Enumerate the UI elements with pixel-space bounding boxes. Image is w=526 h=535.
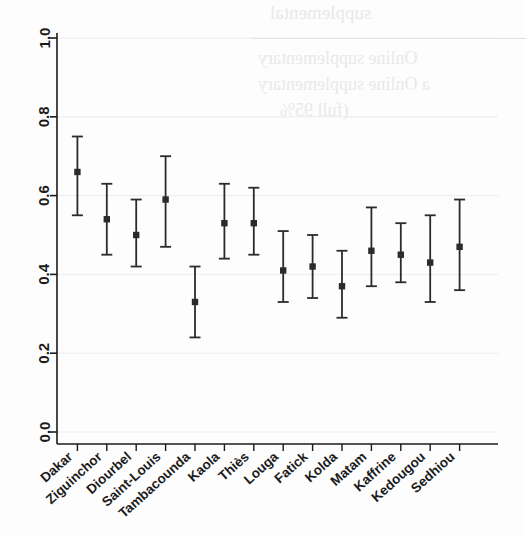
data-point-group bbox=[278, 231, 289, 302]
y-tick-label: 0.8 bbox=[36, 106, 53, 127]
data-point-group bbox=[219, 184, 230, 259]
data-marker bbox=[192, 299, 198, 305]
data-marker bbox=[74, 169, 80, 175]
x-tick-label: Fatick bbox=[272, 449, 311, 487]
data-series-group bbox=[72, 137, 465, 338]
x-tick-group bbox=[77, 444, 459, 451]
data-marker bbox=[456, 244, 462, 250]
data-point-group bbox=[72, 137, 83, 216]
data-point-group bbox=[395, 223, 406, 282]
data-point-group bbox=[454, 200, 465, 291]
data-marker bbox=[339, 283, 345, 289]
data-point-group bbox=[425, 215, 436, 302]
axis-group bbox=[57, 33, 498, 444]
data-marker bbox=[104, 216, 110, 222]
y-tick-group: 0.00.20.40.60.81.0 bbox=[36, 28, 58, 443]
data-marker bbox=[368, 248, 374, 254]
x-label-group: DakarZiguinchorDiourbelSaint-LouisTambac… bbox=[37, 449, 457, 521]
data-marker bbox=[398, 252, 404, 258]
data-marker bbox=[133, 232, 139, 238]
data-point-group bbox=[190, 267, 201, 338]
y-tick-label: 0.0 bbox=[36, 422, 53, 443]
data-point-group bbox=[307, 235, 318, 298]
y-tick-label: 0.2 bbox=[36, 343, 53, 364]
y-tick-label: 1.0 bbox=[36, 28, 53, 49]
data-marker bbox=[280, 267, 286, 273]
data-point-group bbox=[101, 184, 112, 255]
data-point-group bbox=[160, 156, 171, 247]
figure-panel: supplemental Online supplementary a Onli… bbox=[0, 0, 526, 535]
data-marker bbox=[251, 220, 257, 226]
data-marker bbox=[221, 220, 227, 226]
x-tick-label: Louga bbox=[241, 449, 281, 488]
error-bar-chart: 0.00.20.40.60.81.0 DakarZiguinchorDiourb… bbox=[0, 0, 526, 535]
data-marker bbox=[309, 263, 315, 269]
x-tick-label: Kaola bbox=[185, 449, 223, 485]
data-point-group bbox=[131, 200, 142, 267]
y-tick-label: 0.6 bbox=[36, 185, 53, 206]
gridline-group bbox=[57, 38, 498, 432]
data-point-group bbox=[337, 251, 348, 318]
y-tick-label: 0.4 bbox=[36, 263, 53, 285]
data-point-group bbox=[248, 188, 259, 255]
data-marker bbox=[427, 259, 433, 265]
data-marker bbox=[162, 196, 168, 202]
